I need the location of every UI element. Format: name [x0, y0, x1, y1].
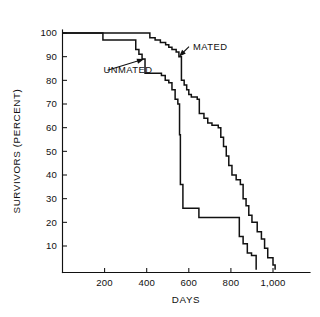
y-tick-label-100: 100	[40, 27, 57, 38]
y-tick-label-50: 50	[46, 146, 57, 157]
y-tick-label-90: 90	[46, 51, 57, 62]
y-tick-label-10: 10	[46, 240, 57, 251]
survival-curve-unmated	[63, 33, 257, 270]
x-tick-label-200: 200	[96, 277, 113, 288]
y-tick-marks	[63, 33, 68, 246]
survival-curve-mated	[63, 33, 276, 270]
y-tick-label-30: 30	[46, 193, 57, 204]
annotation-mated: MATED	[179, 41, 227, 57]
x-tick-label-600: 600	[180, 277, 197, 288]
series-label-unmated: UNMATED	[104, 64, 153, 75]
series-label-mated: MATED	[193, 41, 227, 52]
y-tick-label-40: 40	[46, 169, 57, 180]
survival-curve-figure: 102030405060708090100 2004006008001,000 …	[0, 0, 320, 317]
x-tick-label-400: 400	[138, 277, 155, 288]
y-tick-labels: 102030405060708090100	[40, 27, 57, 251]
y-tick-label-70: 70	[46, 98, 57, 109]
x-tick-label-1000: 1,000	[260, 277, 285, 288]
x-tick-marks	[105, 268, 273, 273]
y-tick-label-60: 60	[46, 122, 57, 133]
y-axis: 102030405060708090100	[40, 27, 67, 272]
chart-canvas: 102030405060708090100 2004006008001,000 …	[0, 0, 320, 317]
data-series-group	[63, 33, 276, 270]
y-axis-title: SURVIVORS (PERCENT)	[11, 89, 22, 214]
unmated-arrow-icon	[137, 59, 145, 64]
x-axis-title: DAYS	[172, 294, 200, 305]
x-axis: 2004006008001,000	[63, 268, 311, 288]
y-tick-label-80: 80	[46, 75, 57, 86]
y-tick-label-20: 20	[46, 217, 57, 228]
x-tick-labels: 2004006008001,000	[96, 277, 285, 288]
x-tick-label-800: 800	[223, 277, 240, 288]
